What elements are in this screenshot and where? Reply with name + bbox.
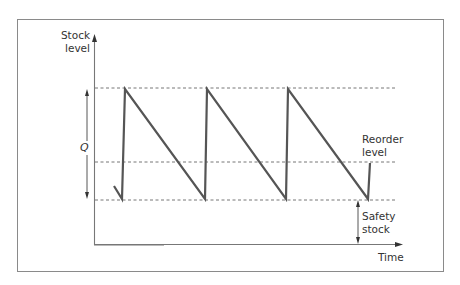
safety-label-line1: Safety <box>362 210 396 223</box>
x-axis-label: Time <box>378 251 404 264</box>
reorder-label-line2: level <box>362 146 403 159</box>
safety-label-line2: stock <box>362 223 396 236</box>
x-axis-arrow-icon <box>395 242 403 247</box>
safety-stock-label: Safety stock <box>362 210 396 236</box>
safety-arrow-down-icon <box>356 237 360 244</box>
y-axis-arrow-icon <box>92 34 97 42</box>
y-axis-label-line1: Stock <box>52 29 90 42</box>
q-arrow-up-icon <box>85 89 89 96</box>
reorder-level-label: Reorder level <box>362 133 403 159</box>
reorder-label-line1: Reorder <box>362 133 403 146</box>
q-label: Q <box>80 141 89 154</box>
y-axis-label-line2: level <box>52 42 90 55</box>
y-axis-label: Stock level <box>52 29 90 55</box>
stock-level-sawtooth <box>114 89 370 199</box>
q-arrow-down-icon <box>85 192 89 199</box>
safety-arrow-up-icon <box>356 200 360 207</box>
